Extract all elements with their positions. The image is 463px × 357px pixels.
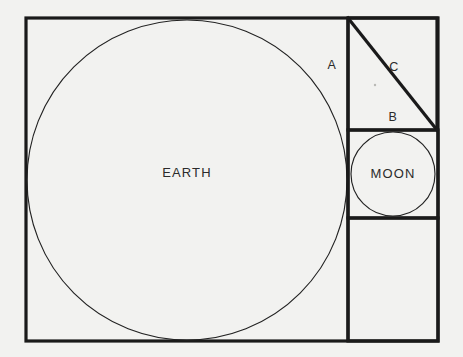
label-b: B — [389, 110, 398, 124]
label-c: C — [389, 60, 399, 74]
scan-speck — [374, 84, 376, 86]
label-moon: MOON — [371, 166, 416, 181]
label-a: A — [328, 58, 337, 72]
earth-moon-diagram: A C B EARTH MOON — [0, 0, 463, 357]
label-earth: EARTH — [162, 165, 211, 180]
diagram-canvas: A C B EARTH MOON — [0, 0, 463, 357]
